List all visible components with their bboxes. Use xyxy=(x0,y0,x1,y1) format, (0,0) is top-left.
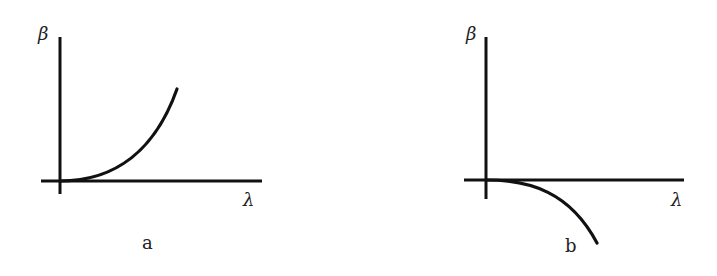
panel-b-curve xyxy=(486,180,597,243)
figure-canvas: β λ a β λ b xyxy=(0,0,717,276)
panel-b-caption: b xyxy=(565,235,577,256)
panel-a-x-label: λ xyxy=(242,189,254,210)
panel-a-curve xyxy=(60,89,177,181)
panel-b: β λ b xyxy=(464,23,684,256)
panel-b-x-label: λ xyxy=(670,189,682,210)
panel-a: β λ a xyxy=(37,23,262,253)
panel-b-y-label: β xyxy=(465,23,476,44)
panel-a-y-label: β xyxy=(37,23,48,44)
panel-a-caption: a xyxy=(142,232,153,253)
